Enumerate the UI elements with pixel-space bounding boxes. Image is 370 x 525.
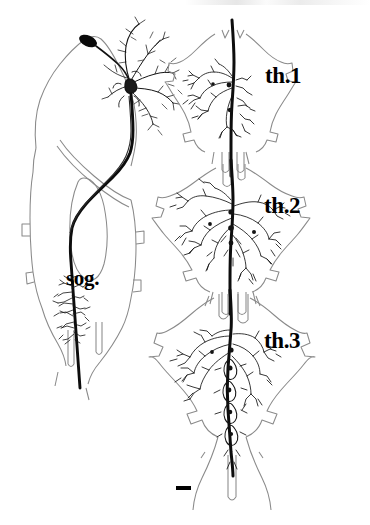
label-th3: th.3 [264,329,300,352]
label-th1: th.1 [265,64,301,87]
figure-drawing [0,0,370,525]
label-th2: th.2 [264,194,300,217]
scale-bar [176,486,191,490]
label-sog: sog. [66,268,99,289]
soma [77,32,99,50]
figure-canvas: th.1 th.2 th.3 sog. [0,0,370,525]
